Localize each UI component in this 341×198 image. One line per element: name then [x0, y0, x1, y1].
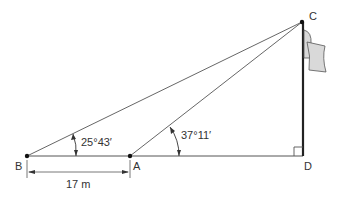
- label-b: B: [15, 160, 22, 172]
- sight-line-a-c: [130, 22, 302, 156]
- arrowhead-icon: [71, 134, 76, 140]
- arrowhead-icon: [122, 170, 129, 174]
- label-d: D: [304, 160, 312, 172]
- angle-label-b: 25°43′: [81, 136, 112, 148]
- flag-icon: [307, 42, 326, 72]
- right-angle-marker: [294, 147, 303, 156]
- label-c: C: [309, 10, 317, 22]
- trig-diagram: B A C D 25°43′ 37°11′ 17 m: [0, 0, 341, 198]
- label-a: A: [133, 160, 141, 172]
- angle-label-a: 37°11′: [181, 129, 211, 141]
- arrowhead-icon: [177, 150, 181, 156]
- point-c: [300, 20, 304, 24]
- distance-label: 17 m: [66, 178, 90, 190]
- arrowhead-icon: [28, 170, 35, 174]
- arrowhead-icon: [74, 150, 78, 156]
- arrowhead-icon: [170, 127, 175, 134]
- sight-line-b-c: [27, 22, 302, 156]
- point-a: [128, 154, 132, 158]
- point-b: [25, 154, 29, 158]
